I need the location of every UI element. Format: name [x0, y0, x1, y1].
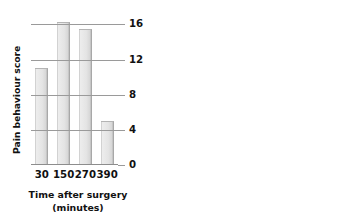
y-axis-title-left: Pain behaviour score [11, 46, 22, 154]
bar [35, 68, 48, 165]
x-tick-label: 30 [31, 170, 53, 180]
gridline [31, 24, 118, 25]
x-axis-title-left-line1: Time after surgery [8, 188, 148, 201]
x-tick-label: 390 [96, 170, 118, 180]
gridline [31, 130, 118, 131]
x-tick-label: 270 [75, 170, 97, 180]
y-tick-mark [118, 60, 125, 61]
bar-slot [75, 13, 97, 165]
bar-slot [96, 13, 118, 165]
bar-group-left [31, 13, 118, 165]
plot-area-left: 0481216 [31, 13, 118, 165]
bar-slot [31, 13, 53, 165]
y-tick-mark [118, 95, 125, 96]
y-tick-label: 0 [129, 160, 136, 170]
x-axis-title-left-units: (minutes) [8, 201, 148, 214]
x-axis-title-left: Time after surgery (minutes) [8, 188, 148, 214]
y-tick-label: 4 [129, 125, 136, 135]
gridline [31, 60, 118, 61]
y-tick-label: 8 [129, 90, 136, 100]
y-tick-mark [118, 130, 125, 131]
y-tick-label: 16 [129, 19, 143, 29]
x-axis-line-left [31, 164, 118, 165]
bar [101, 121, 114, 165]
y-tick-mark [118, 24, 125, 25]
y-tick-mark [118, 165, 125, 166]
chart-panel-pain-behaviour: Pain behaviour score 0481216 30150270390… [0, 0, 179, 222]
bar [57, 22, 70, 165]
bar-slot [53, 13, 75, 165]
x-tick-label: 150 [53, 170, 75, 180]
y-tick-label: 12 [129, 54, 143, 64]
chart-panel-grimace-score: Mean increase in grimace score 00.20.40.… [179, 0, 358, 222]
bar [79, 29, 92, 165]
x-tick-labels-left: 30150270390 [31, 170, 118, 180]
two-panel-bar-chart-figure: Pain behaviour score 0481216 30150270390… [0, 0, 358, 222]
gridline [31, 95, 118, 96]
